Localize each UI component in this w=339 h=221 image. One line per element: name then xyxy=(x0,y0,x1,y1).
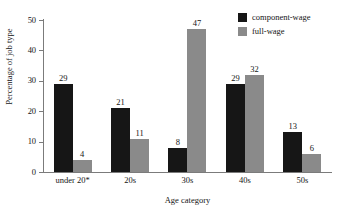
legend-label: component-wage xyxy=(252,13,311,22)
bar-full-wage[interactable]: 11 xyxy=(130,139,149,172)
legend-item-component-wage: component-wage xyxy=(238,10,311,24)
bar-component-wage[interactable]: 29 xyxy=(54,84,73,172)
y-tick-label: 30 xyxy=(14,76,36,85)
bar-full-wage[interactable]: 32 xyxy=(245,75,264,172)
bar-full-wage[interactable]: 47 xyxy=(187,29,206,172)
y-tick-label: 0 xyxy=(14,168,36,177)
bar-group: 136 xyxy=(274,20,331,172)
bar-full-wage[interactable]: 6 xyxy=(302,154,321,172)
category-label: 20s xyxy=(101,176,158,185)
y-axis-title: Percentage of job type xyxy=(5,12,14,122)
legend-item-full-wage: full-wage xyxy=(238,24,311,38)
bar-value-label: 21 xyxy=(116,98,125,107)
bar-value-label: 6 xyxy=(310,144,314,153)
bar-value-label: 4 xyxy=(80,150,84,159)
bar-group: 2932 xyxy=(216,20,273,172)
bar-value-label: 29 xyxy=(231,74,240,83)
y-tick-label: 20 xyxy=(14,107,36,116)
bar-value-label: 13 xyxy=(289,122,298,131)
legend-swatch-icon xyxy=(238,13,247,22)
bar-component-wage[interactable]: 29 xyxy=(226,84,245,172)
chart-legend: component-wage full-wage xyxy=(238,10,311,38)
bar-chart: Percentage of job type 01020304050 29421… xyxy=(0,0,339,221)
y-tick-label: 10 xyxy=(14,137,36,146)
legend-label: full-wage xyxy=(252,27,285,36)
x-axis-title: Age category xyxy=(44,196,331,205)
bar-component-wage[interactable]: 21 xyxy=(111,108,130,172)
category-label: 40s xyxy=(216,176,273,185)
bar-value-label: 47 xyxy=(193,19,202,28)
bar-component-wage[interactable]: 8 xyxy=(168,148,187,172)
bar-component-wage[interactable]: 13 xyxy=(283,132,302,172)
category-label: 30s xyxy=(159,176,216,185)
bar-group: 847 xyxy=(159,20,216,172)
category-label: 50s xyxy=(274,176,331,185)
bar-group: 2111 xyxy=(101,20,158,172)
y-tick-label: 50 xyxy=(14,16,36,25)
bar-value-label: 11 xyxy=(135,129,143,138)
bar-group: 294 xyxy=(44,20,101,172)
bar-full-wage[interactable]: 4 xyxy=(73,160,92,172)
category-label: under 20* xyxy=(44,176,101,185)
y-tick-label: 40 xyxy=(14,46,36,55)
bar-value-label: 29 xyxy=(59,74,68,83)
bar-value-label: 8 xyxy=(176,138,180,147)
legend-swatch-icon xyxy=(238,27,247,36)
bar-value-label: 32 xyxy=(250,65,259,74)
x-axis-line xyxy=(43,172,332,173)
plot-area: 29421118472932136 xyxy=(44,20,331,172)
